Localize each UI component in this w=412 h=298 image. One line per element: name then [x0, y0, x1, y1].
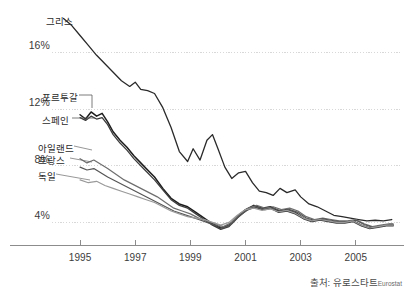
x-tick-label: 2005	[333, 252, 379, 263]
x-tick-label: 2001	[223, 252, 269, 263]
source-prefix: 출처: 유로스타트	[310, 277, 378, 288]
series-label-france: 프랑스	[38, 153, 65, 167]
series-lines	[64, 18, 394, 229]
series-line-스페인	[80, 116, 393, 229]
series-label-portugal: 포르투갈	[42, 90, 78, 104]
x-tick-label: 2003	[278, 252, 324, 263]
leader-line-stub-0	[74, 146, 92, 150]
series-line-프랑스	[80, 167, 393, 228]
x-axis	[10, 240, 404, 245]
series-line-포르투갈	[80, 112, 393, 228]
label-leader-lines	[56, 95, 95, 180]
x-tick-label: 1995	[57, 252, 103, 263]
series-label-greece: 그리스	[46, 14, 73, 28]
x-tick-label: 1999	[167, 252, 213, 263]
leader-line-portugal	[79, 95, 92, 108]
source-suffix: Eurostat	[378, 280, 402, 287]
x-tick-label: 1997	[112, 252, 158, 263]
y-tick-label: 16%	[8, 39, 50, 51]
source-note: 출처: 유로스타트Eurostat	[310, 275, 403, 289]
chart-container: 16%12%8%4% 199519971999200120032005 그리스포…	[0, 0, 412, 298]
series-label-germany: 독일	[38, 169, 56, 183]
leader-line-stub-2	[56, 174, 90, 180]
y-tick-label: 4%	[8, 209, 50, 221]
series-line-그리스	[64, 18, 392, 220]
grid-lines	[52, 52, 400, 222]
series-label-spain: 스페인	[42, 113, 69, 127]
